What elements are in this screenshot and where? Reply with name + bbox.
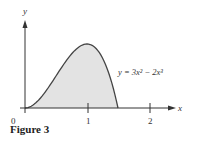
x-tick-label-2: 2 xyxy=(148,116,153,126)
y-axis-arrow-icon xyxy=(23,20,28,28)
x-axis-label: x xyxy=(177,103,182,113)
x-axis-arrow-icon xyxy=(168,106,176,111)
x-tick-label-1: 1 xyxy=(86,116,91,126)
figure-caption: Figure 3 xyxy=(10,123,49,135)
y-axis-label: y xyxy=(22,6,27,16)
function-annotation: y = 3x² − 2x³ xyxy=(117,67,163,77)
